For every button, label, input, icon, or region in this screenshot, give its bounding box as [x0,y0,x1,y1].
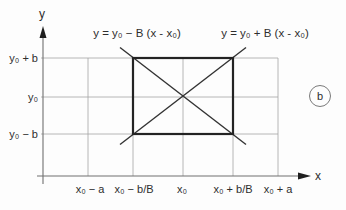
envelope-diagram: y = y₀ − B (x - x₀) y = y₀ + B (x - x₀) … [0,0,346,210]
y-axis-arrowhead [40,26,47,38]
xtick-x0-plus-bB: x₀ + b/B [213,183,252,195]
x-axis-arrowhead [298,173,311,180]
falling-line-equation: y = y₀ − B (x - x₀) [93,27,181,39]
xtick-x0: x₀ [177,183,187,195]
rising-line-equation: y = y₀ + B (x - x₀) [221,27,309,39]
diagram-svg: y = y₀ − B (x - x₀) y = y₀ + B (x - x₀) … [0,0,346,210]
ytick-y0-plus-b: y₀ + b [9,52,38,64]
ytick-y0-minus-b: y₀ − b [9,128,38,140]
xtick-x0-minus-bB: x₀ − b/B [114,183,153,195]
xtick-x0-plus-a: x₀ + a [264,183,294,195]
grid [41,58,278,176]
x-axis-label: x [315,169,321,183]
xtick-x0-minus-a: x₀ − a [76,183,106,195]
panel-label-letter: b [317,90,323,102]
y-axis-label: y [39,7,45,21]
ytick-y0: y₀ [28,91,38,103]
